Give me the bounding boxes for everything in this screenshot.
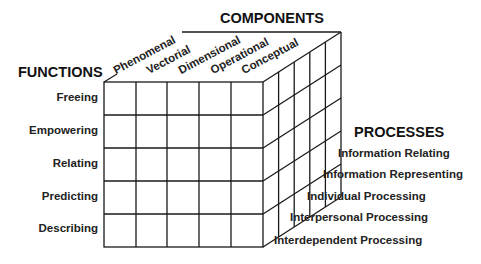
process-label-interdependent-processing: Interdependent Processing — [274, 234, 422, 246]
function-label-predicting: Predicting — [0, 190, 98, 202]
process-label-interpersonal-processing: Interpersonal Processing — [290, 211, 428, 223]
components-title: COMPONENTS — [220, 10, 324, 26]
function-label-describing: Describing — [0, 222, 98, 234]
process-label-individual-processing: Individual Processing — [307, 190, 426, 202]
functions-title: FUNCTIONS — [18, 64, 103, 80]
function-label-relating: Relating — [0, 157, 98, 169]
process-label-information-representing: Information Representing — [323, 168, 463, 180]
processes-title: PROCESSES — [354, 124, 444, 140]
function-label-empowering: Empowering — [0, 124, 98, 136]
process-label-information-relating: Information Relating — [338, 147, 450, 159]
function-label-freeing: Freeing — [0, 91, 98, 103]
